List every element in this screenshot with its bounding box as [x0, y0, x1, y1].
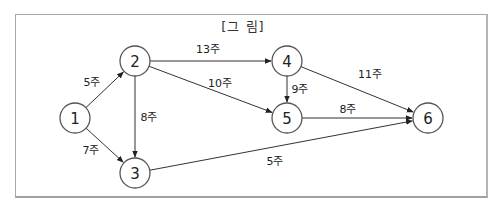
edge-label-2-3: 8주	[141, 111, 158, 124]
node-label: 5	[282, 110, 292, 128]
edge-label-1-2: 5주	[84, 76, 101, 89]
node-4: 4	[272, 46, 302, 76]
node-label: 3	[130, 165, 140, 183]
node-label: 1	[70, 110, 80, 128]
node-1: 1	[60, 103, 90, 133]
node-5: 5	[272, 103, 302, 133]
node-label: 6	[423, 110, 433, 128]
edge-label-4-5: 9주	[292, 83, 309, 96]
edge-label-3-6: 5주	[267, 155, 284, 168]
node-2: 2	[120, 46, 150, 76]
node-6: 6	[413, 103, 443, 133]
figure-title: [그 림]	[221, 19, 264, 34]
edge-label-2-5: 10주	[208, 77, 232, 90]
node-3: 3	[120, 158, 150, 188]
edge-label-2-4: 13주	[196, 43, 220, 56]
edge-label-1-3: 7주	[83, 144, 100, 157]
node-label: 2	[130, 53, 140, 71]
edge-label-4-6: 11주	[358, 68, 382, 81]
network-diagram: [그 림] 5주7주8주13주10주9주11주8주5주 123456	[0, 0, 502, 210]
node-label: 4	[282, 53, 292, 71]
edge-label-5-6: 8주	[340, 103, 357, 116]
